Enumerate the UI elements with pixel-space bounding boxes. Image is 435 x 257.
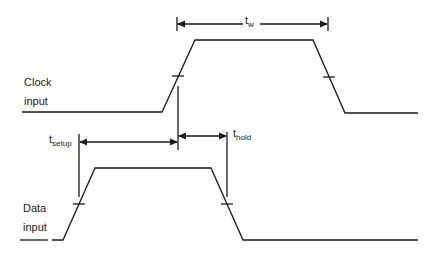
data-label: Data input bbox=[23, 202, 47, 234]
clock-waveform bbox=[22, 40, 418, 113]
tw-label: tw bbox=[245, 14, 254, 29]
clock-label: Clock input bbox=[24, 76, 52, 108]
timing-diagram bbox=[0, 0, 435, 257]
clock-label-line2: input bbox=[24, 95, 52, 108]
setup-label: tsetup bbox=[49, 133, 72, 148]
hold-label: thold bbox=[233, 127, 251, 142]
clock-label-line1: Clock bbox=[24, 76, 52, 89]
data-waveform bbox=[52, 168, 418, 240]
data-label-line2: input bbox=[23, 221, 47, 234]
data-label-line1: Data bbox=[23, 202, 47, 215]
